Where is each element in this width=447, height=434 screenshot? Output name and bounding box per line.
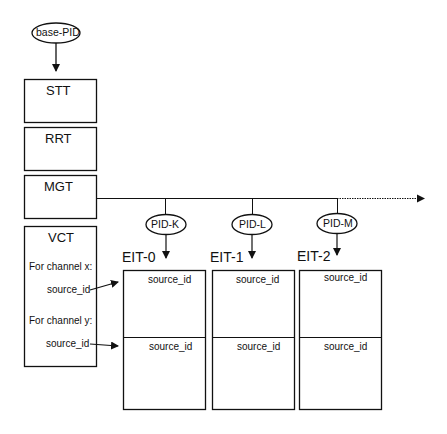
- channel-y-source-id: source_id: [46, 338, 89, 349]
- eit-0-box: [124, 271, 206, 410]
- eit-1-row-2: source_id: [237, 341, 280, 352]
- eit-0-label: EIT-0: [122, 249, 155, 265]
- eit-0-row-1: source_id: [148, 274, 191, 285]
- eit-1-row-1: source_id: [236, 274, 279, 285]
- channel-y-arrow: [90, 344, 118, 346]
- channel-y-label: For channel y:: [29, 315, 92, 326]
- channel-x-source-id: source_id: [47, 284, 90, 295]
- base-pid-label: base-PID: [36, 26, 80, 38]
- mgt-bus-arrowhead: [417, 195, 425, 203]
- eit-1-box: [213, 271, 295, 410]
- vct-label: VCT: [48, 230, 74, 245]
- eit-0-row-2: source_id: [149, 341, 192, 352]
- channel-x-label: For channel x:: [29, 261, 92, 272]
- eit-2-row-2: source_id: [324, 341, 367, 352]
- pid-m-label: PID-M: [323, 217, 353, 229]
- mgt-label: MGT: [44, 179, 73, 194]
- pid-k-label: PID-K: [151, 218, 179, 230]
- rrt-label: RRT: [45, 131, 71, 146]
- eit-2-box: [300, 271, 382, 410]
- pid-l-label: PID-L: [239, 218, 266, 230]
- channel-x-arrow: [90, 282, 118, 290]
- eit-2-row-1: source_id: [324, 272, 367, 283]
- stt-label: STT: [46, 83, 71, 98]
- diagram-canvas: [0, 0, 447, 434]
- eit-1-label: EIT-1: [210, 249, 243, 265]
- eit-2-label: EIT-2: [297, 248, 330, 264]
